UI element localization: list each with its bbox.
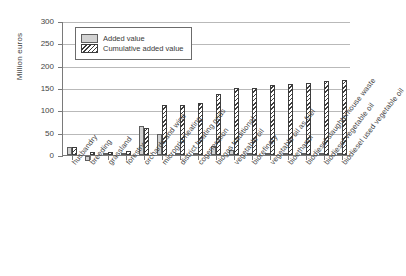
y-axis-tick-label: 50 xyxy=(14,129,54,138)
legend-label-cumulative-added-value: Cumulative added value xyxy=(103,44,183,53)
legend-item-added-value: Added value xyxy=(81,34,183,43)
y-axis-tick-label: 0 xyxy=(14,151,54,160)
chart-legend: Added value Cumulative added value xyxy=(75,27,192,60)
legend-swatch-added-value xyxy=(81,34,98,43)
y-axis-tick xyxy=(58,156,63,157)
legend-item-cumulative-added-value: Cumulative added value xyxy=(81,44,183,53)
bar-added-value xyxy=(67,147,72,155)
y-axis-tick-label: 100 xyxy=(14,106,54,115)
y-axis-tick-label: 200 xyxy=(14,62,54,71)
legend-swatch-cumulative-added-value xyxy=(81,44,98,53)
legend-label-added-value: Added value xyxy=(103,34,145,43)
y-axis-tick-label: 300 xyxy=(14,17,54,26)
y-axis-tick-label: 150 xyxy=(14,84,54,93)
y-axis-tick-label: 250 xyxy=(14,39,54,48)
